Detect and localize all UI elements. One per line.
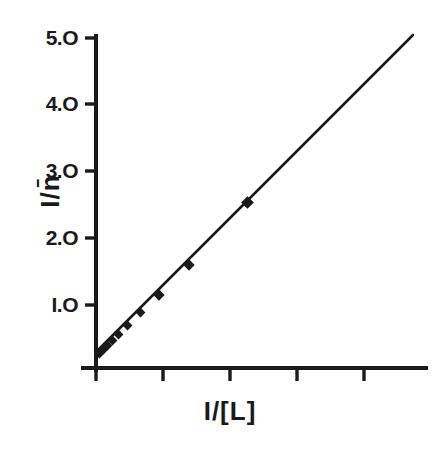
y-tick-label-5: 5.O [26,27,78,48]
data-point [153,289,164,300]
data-point [183,259,194,270]
data-point [114,330,124,340]
data-point [136,308,146,318]
y-axis-title: I/n̄ [37,136,63,246]
x-axis-title: I/[L] [155,398,305,424]
data-point [123,321,133,331]
data-point [241,196,254,209]
figure-container: 5.O 4.O 3.O 2.O I.O I/n̄ I/[L] [0,0,441,453]
y-tick-label-4: 4.O [26,93,78,114]
fit-line [96,35,413,352]
data-points [95,196,254,358]
axes-group [83,36,426,370]
y-tick-label-1: I.O [26,294,78,315]
